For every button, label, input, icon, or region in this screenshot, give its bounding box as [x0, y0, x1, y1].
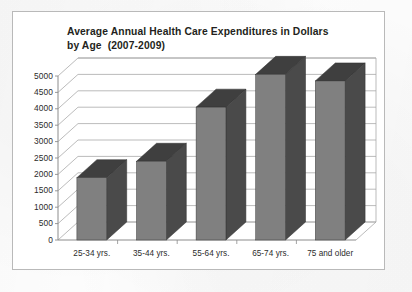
- y-axis-tick-label: 3500: [19, 120, 53, 130]
- x-axis-category-label: 35-44 yrs.: [117, 249, 185, 258]
- chart-title: Average Annual Health Care Expenditures …: [67, 25, 377, 52]
- y-axis-tick-label: 1000: [19, 202, 53, 212]
- x-axis-category-label: 65-74 yrs.: [237, 249, 305, 258]
- y-axis-tick-label: 0: [19, 235, 53, 245]
- chart-frame: Average Annual Health Care Expenditures …: [12, 11, 385, 270]
- chart-title-line-2: by Age (2007-2009): [67, 39, 377, 53]
- y-axis-tick-label: 500: [19, 218, 53, 228]
- y-axis-tick-label: 5000: [19, 71, 53, 81]
- y-axis-tick-label: 4500: [19, 87, 53, 97]
- x-axis-category-label: 55-64 yrs.: [177, 249, 245, 258]
- screenshot-canvas: Average Annual Health Care Expenditures …: [0, 0, 412, 292]
- y-axis-tick-label: 2500: [19, 153, 53, 163]
- y-axis-tick-label: 4000: [19, 103, 53, 113]
- x-axis-category-label: 75 and older: [296, 249, 364, 258]
- y-axis-tick-label: 3000: [19, 136, 53, 146]
- x-axis-category-label: 25-34 yrs.: [58, 249, 126, 258]
- y-axis-tick-label: 2000: [19, 169, 53, 179]
- chart-title-line-1: Average Annual Health Care Expenditures …: [67, 25, 377, 39]
- y-axis-tick-label: 1500: [19, 185, 53, 195]
